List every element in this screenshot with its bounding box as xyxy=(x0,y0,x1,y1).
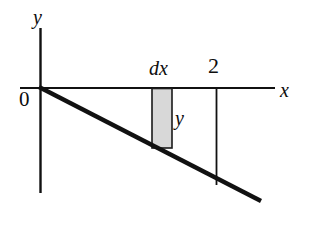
representative-strip xyxy=(152,89,172,149)
strip-width-label: dx xyxy=(149,58,168,78)
figure-canvas: y x 0 dx 2 y xyxy=(0,0,317,231)
y-axis-label: y xyxy=(33,7,42,27)
origin-label: 0 xyxy=(19,89,30,110)
x-axis-label: x xyxy=(280,80,289,100)
figure-drawing xyxy=(0,0,317,231)
descending-line xyxy=(39,87,261,201)
x-mark-label: 2 xyxy=(208,55,219,77)
strip-height-label: y xyxy=(175,108,184,128)
